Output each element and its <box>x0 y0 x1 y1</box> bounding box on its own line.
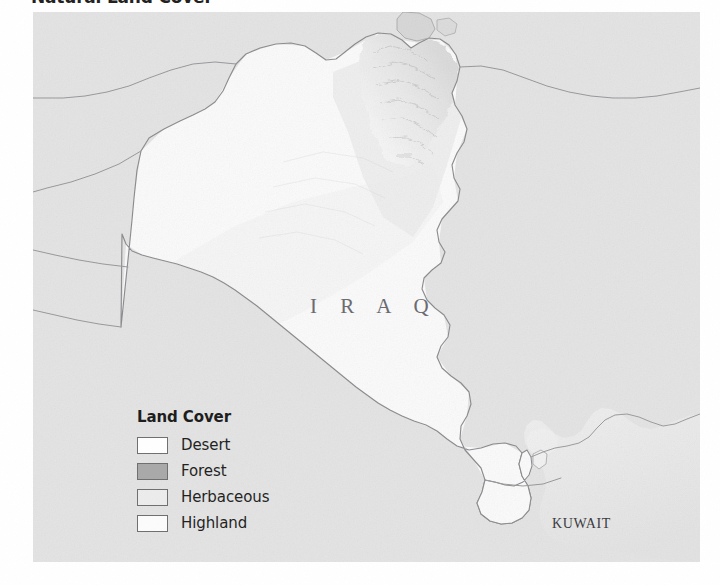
country-label-iraq: I R A Q <box>310 294 438 319</box>
legend-item-label: Forest <box>181 462 226 480</box>
figure-title: Natural Land Cover <box>31 0 213 7</box>
map-legend: Land Cover Desert Forest Herbaceous High… <box>137 408 269 536</box>
legend-item-label: Desert <box>181 436 230 454</box>
herbaceous-swatch <box>137 489 168 506</box>
map-paper-grain <box>33 12 700 562</box>
map-canvas[interactable]: I R A Q KUWAIT Land Cover Desert Forest … <box>33 12 700 562</box>
legend-item-label: Herbaceous <box>181 488 269 506</box>
legend-item-desert[interactable]: Desert <box>137 432 269 458</box>
legend-item-highland[interactable]: Highland <box>137 510 269 536</box>
legend-item-forest[interactable]: Forest <box>137 458 269 484</box>
highland-swatch <box>137 515 168 532</box>
forest-swatch <box>137 463 168 480</box>
country-label-kuwait: KUWAIT <box>552 516 611 532</box>
desert-swatch <box>137 437 168 454</box>
legend-title: Land Cover <box>137 408 269 426</box>
legend-item-label: Highland <box>181 514 247 532</box>
map-vector <box>33 12 700 562</box>
legend-item-herbaceous[interactable]: Herbaceous <box>137 484 269 510</box>
